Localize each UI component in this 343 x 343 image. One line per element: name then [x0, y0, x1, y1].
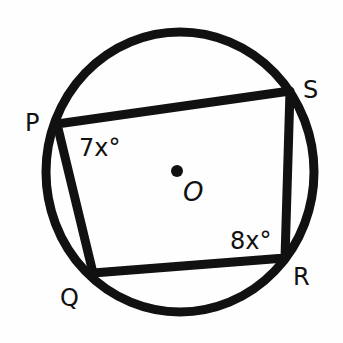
- vertex-label-s: S: [303, 76, 318, 104]
- vertex-label-r: R: [293, 263, 310, 291]
- center-label: O: [183, 177, 203, 207]
- diagram-canvas: O P Q R S 7x° 8x°: [0, 0, 343, 343]
- center-point: [171, 165, 183, 177]
- angle-label-r: 8x°: [230, 227, 271, 255]
- geometry-figure: O P Q R S 7x° 8x°: [0, 0, 343, 343]
- vertex-label-q: Q: [60, 284, 79, 312]
- angle-label-p: 7x°: [79, 134, 120, 162]
- vertex-label-p: P: [25, 109, 39, 137]
